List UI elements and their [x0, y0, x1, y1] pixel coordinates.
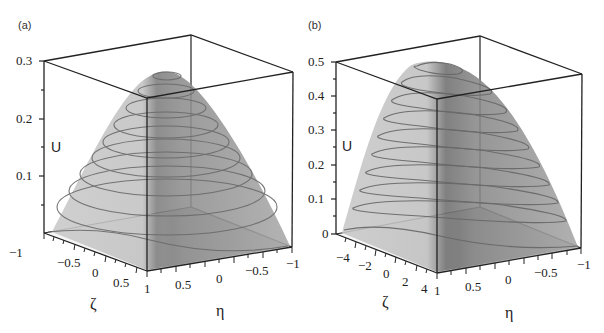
zeta-tick-label: −4: [336, 251, 350, 264]
zeta-tick-label: −2: [358, 259, 372, 272]
z-tick-label: 0.1: [308, 192, 324, 205]
figure: (a) 0.3 0.2 0.1 U −1 −0.5 0 0.5 1 0.5 0 …: [0, 0, 604, 333]
eta-tick-label: −0.5: [534, 266, 558, 279]
z-tick-label: 0.2: [308, 158, 324, 171]
eta-tick-label: 0: [505, 273, 512, 286]
u-axis-label: U: [342, 139, 352, 153]
eta-tick-label: 0.5: [465, 280, 481, 293]
zeta-tick-label: 4: [421, 282, 428, 295]
eta-tick-label: −1: [577, 258, 591, 271]
corner-tick-label: 1: [434, 284, 441, 297]
zeta-tick-label: 2: [402, 275, 409, 288]
z-tick-label: 0.3: [308, 123, 324, 136]
z-tick-label: 0.4: [308, 89, 324, 102]
zeta-tick-label: 0: [383, 267, 390, 280]
panel-label-b: (b): [308, 19, 321, 31]
z-tick-label: 0: [322, 227, 329, 240]
z-tick-label: 0.5: [308, 55, 324, 68]
panel-b-plot: [0, 0, 604, 333]
zeta-axis-label: ζ: [382, 294, 389, 310]
eta-axis-label: η: [505, 305, 513, 321]
